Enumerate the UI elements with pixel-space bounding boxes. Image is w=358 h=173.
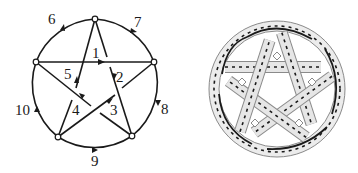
- vertex-left: [33, 59, 39, 65]
- edge-7: [95, 19, 154, 62]
- edge-label-8: 8: [161, 101, 169, 117]
- edge-label-7: 7: [134, 14, 142, 30]
- vertex-bottom-left: [55, 134, 61, 140]
- edge-label-5: 5: [64, 66, 72, 82]
- arrow-6-icon: [60, 24, 65, 31]
- edge-label-10: 10: [15, 102, 30, 118]
- edge-2c: [122, 62, 154, 88]
- edge-10: [32, 62, 58, 137]
- vertex-right: [151, 59, 157, 65]
- vertex-top: [92, 16, 98, 22]
- vertex-bottom-right: [129, 133, 135, 139]
- arrow-10-icon: [34, 106, 40, 112]
- knot-ribbon-diagram: [190, 0, 358, 173]
- edge-label-6: 6: [48, 11, 56, 27]
- edge-label-4: 4: [72, 102, 80, 118]
- edge-6: [36, 19, 95, 62]
- edge-label-2: 2: [116, 69, 124, 85]
- graph-svg: 6 7 1 5 2 4 3 8 10 9: [0, 0, 190, 173]
- directed-graph-diagram: 6 7 1 5 2 4 3 8 10 9: [0, 0, 190, 173]
- edge-9: [58, 136, 132, 147]
- edge-label-3: 3: [110, 102, 118, 118]
- edge-8: [132, 62, 157, 136]
- knot-svg: [190, 0, 358, 173]
- edge-label-1: 1: [92, 45, 100, 61]
- edge-label-9: 9: [91, 153, 99, 169]
